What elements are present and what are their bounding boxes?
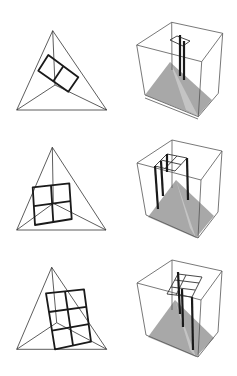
figure <box>0 0 237 376</box>
row-2-triangle-diagram <box>17 147 106 230</box>
row-2-cube-diagram <box>137 140 222 238</box>
row-1-triangle-diagram <box>17 31 107 110</box>
row-3-triangle-diagram <box>17 267 107 349</box>
row-3-cube-diagram <box>137 260 222 357</box>
row-1-cube-diagram <box>137 22 223 119</box>
